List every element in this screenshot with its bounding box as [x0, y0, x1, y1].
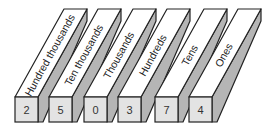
place-value-diagram: Hundred thousands2Ten thousands5Thousand… — [0, 0, 278, 135]
digit-value: 5 — [57, 104, 63, 116]
digit-value: 0 — [92, 104, 98, 116]
digit-value: 4 — [197, 104, 203, 116]
digit-value: 7 — [163, 104, 169, 116]
digit-value: 2 — [23, 104, 29, 116]
digit-value: 3 — [126, 104, 132, 116]
